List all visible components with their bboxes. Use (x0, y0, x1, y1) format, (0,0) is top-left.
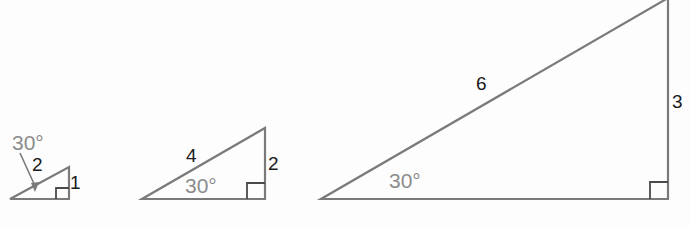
angle-label-small: 30° (12, 131, 44, 154)
opposite-label-large: 3 (672, 91, 683, 112)
opposite-label-small: 1 (70, 172, 81, 193)
opposite-label-medium: 2 (268, 153, 279, 174)
diagram-canvas: 30° 2 1 4 30° 2 6 30° 3 (0, 0, 690, 226)
triangle-large-outline (321, 0, 668, 199)
angle-label-medium: 30° (185, 174, 217, 197)
hypotenuse-label-small: 2 (32, 154, 43, 175)
hypotenuse-label-large: 6 (476, 73, 487, 94)
right-angle-mark-large (650, 182, 668, 199)
hypotenuse-label-medium: 4 (186, 145, 197, 166)
triangle-medium: 4 30° 2 (142, 128, 279, 199)
triangle-small: 30° 2 1 (10, 131, 81, 199)
right-angle-mark-medium (247, 183, 265, 199)
angle-label-large: 30° (389, 169, 421, 192)
similar-triangles-diagram: 30° 2 1 4 30° 2 6 30° 3 (0, 0, 690, 226)
right-angle-mark-small (56, 188, 69, 199)
triangle-large: 6 30° 3 (321, 0, 683, 199)
